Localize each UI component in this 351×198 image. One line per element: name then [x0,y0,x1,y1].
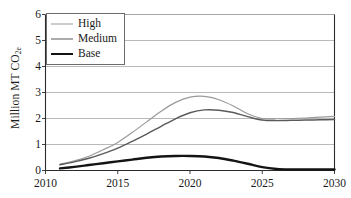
legend-item-high: High [51,16,117,31]
legend: High Medium Base [46,13,125,65]
line-sample-high-icon [51,19,73,29]
line-sample-base-icon [51,49,73,59]
data-series [60,96,335,169]
legend-label-high: High [78,17,101,30]
legend-item-medium: Medium [51,31,117,46]
line-sample-medium-icon [51,34,73,44]
legend-item-base: Base [51,46,117,61]
legend-label-medium: Medium [78,32,117,45]
series-line-base [60,156,335,170]
legend-label-base: Base [78,47,100,60]
